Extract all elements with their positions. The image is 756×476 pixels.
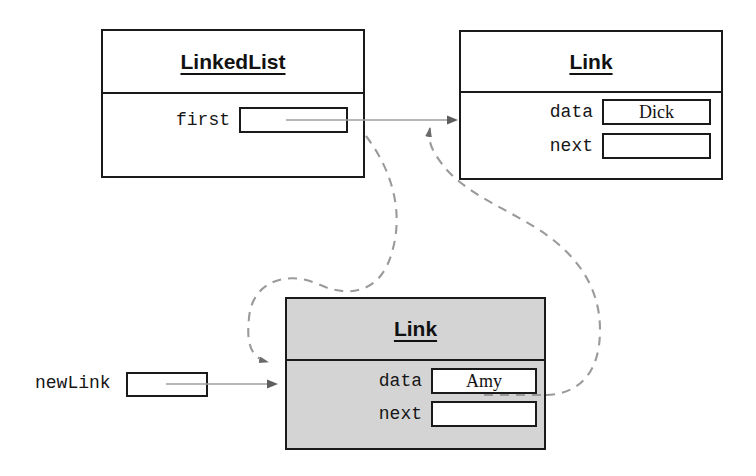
reference-label-newlink: newLink bbox=[35, 373, 111, 393]
object-title-link-amy: Link bbox=[394, 317, 437, 341]
object-box-linkedlist[interactable]: LinkedList first bbox=[101, 29, 365, 178]
field-value-first[interactable] bbox=[239, 107, 348, 133]
field-label-amy-next: next bbox=[379, 404, 422, 424]
field-row-dick-data: data Dick bbox=[461, 98, 711, 126]
field-value-amy-next[interactable] bbox=[431, 401, 537, 427]
object-header-linkedlist: LinkedList bbox=[103, 31, 363, 94]
field-value-amy-data[interactable]: Amy bbox=[431, 368, 537, 394]
field-value-dick-next[interactable] bbox=[602, 133, 711, 159]
object-box-link-dick[interactable]: Link data Dick next bbox=[459, 30, 723, 180]
object-title-link-dick: Link bbox=[569, 50, 612, 74]
field-row-amy-data: data Amy bbox=[287, 367, 537, 395]
object-box-link-amy[interactable]: Link data Amy next bbox=[285, 297, 546, 450]
reference-box-newlink[interactable] bbox=[126, 372, 208, 397]
field-row-dick-next: next bbox=[461, 132, 711, 160]
pointer-arrow-first bbox=[447, 116, 458, 125]
field-label-first: first bbox=[176, 110, 230, 130]
object-header-link-amy: Link bbox=[287, 299, 544, 361]
field-label-amy-data: data bbox=[379, 371, 422, 391]
pointer-arrow-newlink bbox=[267, 380, 278, 389]
field-row-first: first bbox=[103, 94, 348, 146]
object-title-linkedlist: LinkedList bbox=[180, 50, 285, 74]
field-label-dick-data: data bbox=[550, 102, 593, 122]
field-value-dick-data[interactable]: Dick bbox=[602, 99, 711, 125]
object-header-link-dick: Link bbox=[461, 32, 721, 93]
field-row-amy-next: next bbox=[287, 400, 537, 428]
field-label-dick-next: next bbox=[550, 136, 593, 156]
diagram-canvas: LinkedList first Link data Dick next bbox=[0, 0, 756, 476]
